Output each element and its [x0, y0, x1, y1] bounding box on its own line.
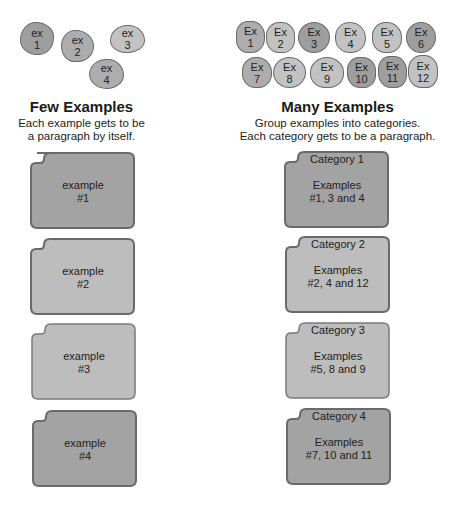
category-card-4: Category 4 Examples#7, 10 and 11 — [286, 408, 392, 485]
category-card-2: Category 2 Examples#2, 4 and 12 — [285, 236, 391, 313]
example-blob-3: Ex3 — [298, 22, 330, 53]
example-card-4: example#4 — [32, 410, 138, 487]
many-examples-heading: Many Examples — [225, 98, 450, 115]
example-card-2: example#2 — [30, 238, 136, 315]
few-examples-heading: Few Examples — [0, 98, 194, 115]
example-blob-4: ex4 — [89, 59, 124, 89]
category-label: Category 3 — [285, 324, 391, 337]
category-card-3: Category 3 Examples#5, 8 and 9 — [285, 322, 391, 399]
example-blob-3: ex3 — [110, 25, 145, 53]
many-examples-subtitle: Group examples into categories. Each cat… — [225, 117, 450, 143]
category-label: Category 4 — [286, 410, 392, 423]
example-blob-12: Ex12 — [408, 55, 438, 88]
example-blob-10: Ex10 — [347, 57, 376, 88]
example-card-3: example#3 — [31, 323, 137, 400]
example-blob-9: Ex9 — [310, 57, 344, 88]
example-card-1: example#1 — [30, 152, 136, 229]
category-card-1: Category 1 Examples#1, 3 and 4 — [284, 151, 390, 228]
few-examples-subtitle: Each example gets to be a paragraph by i… — [0, 117, 194, 143]
example-blob-1: Ex1 — [236, 21, 265, 53]
category-label: Category 2 — [285, 238, 391, 251]
example-blob-8: Ex8 — [273, 57, 306, 88]
category-label: Category 1 — [284, 153, 390, 166]
example-blob-2: Ex2 — [266, 22, 295, 53]
example-blob-1: ex1 — [20, 22, 54, 55]
example-blob-2: ex2 — [61, 30, 94, 62]
example-blob-7: Ex7 — [242, 57, 272, 88]
example-blob-11: Ex11 — [378, 56, 407, 88]
example-blob-5: Ex5 — [372, 22, 402, 53]
example-blob-4: Ex4 — [335, 22, 366, 53]
example-blob-6: Ex6 — [406, 22, 436, 53]
